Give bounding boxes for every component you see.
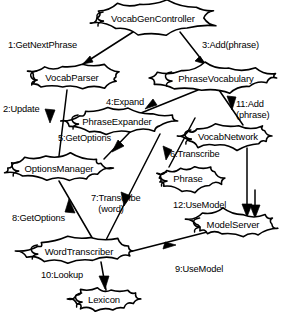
connector-8-getoptions bbox=[59, 181, 94, 241]
connector-2-update bbox=[59, 90, 67, 156]
arrowhead-10 bbox=[99, 276, 109, 289]
message-label-2: 2:Update bbox=[3, 104, 40, 115]
arrowhead-1 bbox=[83, 56, 93, 64]
object-blob-phrase[interactable] bbox=[157, 167, 225, 193]
object-blob-modelserver[interactable] bbox=[185, 208, 277, 237]
connector-4-expand bbox=[141, 90, 198, 113]
message-label-4: 4:Expand bbox=[106, 97, 144, 108]
message-label-11: 11:Add (phrase) bbox=[236, 99, 269, 120]
object-blob-lexicon[interactable] bbox=[67, 288, 141, 312]
connector-6-transcribe bbox=[169, 118, 195, 167]
object-blob-vocabnetwork[interactable] bbox=[177, 124, 272, 151]
message-label-7: 7:Transcribe (word) bbox=[91, 193, 141, 214]
message-label-6: 6:Transcribe bbox=[170, 149, 220, 160]
connector-9-usemodel bbox=[125, 230, 215, 253]
object-blob-vocabgencontroller[interactable] bbox=[90, 0, 216, 35]
message-label-8: 8:GetOptions bbox=[12, 213, 65, 224]
object-blob-optionsmanager[interactable] bbox=[5, 153, 114, 181]
object-blob-phrasevocabulary[interactable] bbox=[149, 62, 277, 93]
arrowhead-9 bbox=[163, 242, 176, 249]
message-label-5: 5:GetOptions bbox=[58, 133, 111, 144]
message-label-9: 9:UseModel bbox=[175, 264, 223, 275]
object-blob-vocabparser[interactable] bbox=[28, 64, 120, 89]
arrowhead-5 bbox=[112, 140, 124, 152]
object-blob-phraseexpander[interactable] bbox=[61, 108, 178, 135]
arrowhead-2 bbox=[45, 109, 55, 123]
message-label-3: 3:Add(phrase) bbox=[202, 40, 259, 51]
message-label-12: 12:UseModel bbox=[173, 200, 226, 211]
message-label-1: 1:GetNextPhrase bbox=[8, 40, 77, 51]
message-label-10: 10:Lookup bbox=[41, 270, 83, 281]
collaboration-diagram: VocabGenControllerVocabParserPhraseVocab… bbox=[0, 0, 291, 317]
